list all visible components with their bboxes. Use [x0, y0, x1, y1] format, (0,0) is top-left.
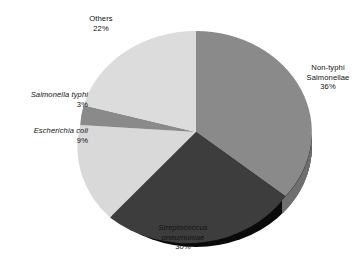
pie-label-non-typhi-value: 36% — [296, 82, 360, 92]
pie-label-others-name: Others — [72, 14, 130, 24]
pie-label-streptococcus-pneumoniae: Streptococcus pneumoniae 30% — [128, 223, 238, 252]
pie-label-salmonella-typhi: Salmonella typhi 3% — [2, 90, 88, 109]
pie-label-non-typhi-line2: Salmonellae — [296, 73, 360, 83]
pie-label-salmonella-typhi-name: Salmonella typhi — [2, 90, 88, 100]
pie-label-escherichia-coli: Escherichia coli 9% — [2, 126, 88, 145]
pie-label-escherichia-coli-value: 9% — [2, 136, 88, 146]
pie-label-escherichia-coli-name: Escherichia coli — [2, 126, 88, 136]
pie-label-others-value: 22% — [72, 24, 130, 34]
pie-label-others: Others 22% — [72, 14, 130, 33]
pie-label-salmonella-typhi-value: 3% — [2, 100, 88, 110]
pie-chart-figure: Others 22% Non-typhi Salmonellae 36% Sal… — [0, 0, 362, 260]
pie-label-non-typhi-line1: Non-typhi — [296, 63, 360, 73]
pie-label-non-typhi-salmonellae: Non-typhi Salmonellae 36% — [296, 63, 360, 92]
pie-label-streptococcus-line2: pneumoniae — [128, 233, 238, 243]
pie-label-streptococcus-line1: Streptococcus — [128, 223, 238, 233]
pie-label-streptococcus-value: 30% — [128, 242, 238, 252]
